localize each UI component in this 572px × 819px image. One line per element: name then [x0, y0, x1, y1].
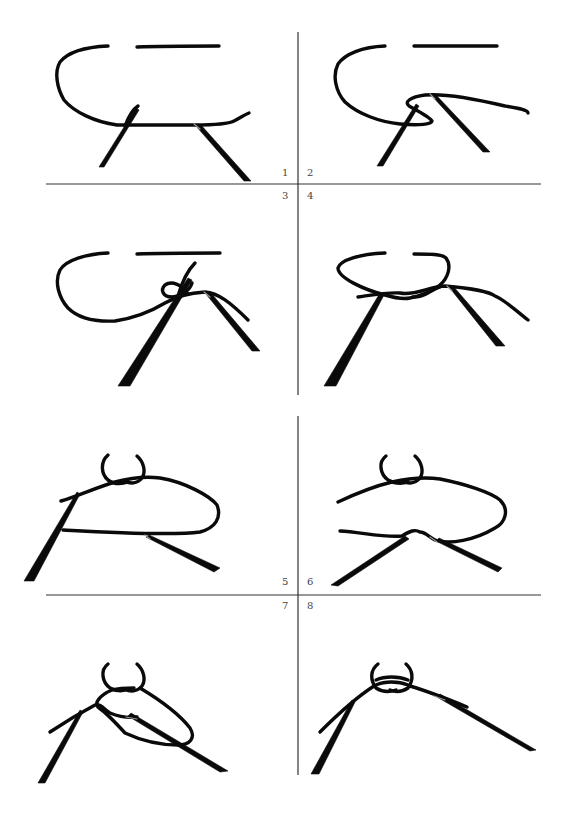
needle-left-icon [377, 104, 419, 166]
needle-right-icon [206, 293, 260, 351]
rope-crossing [358, 286, 528, 320]
panel-step-1 [57, 46, 251, 181]
needle-left-icon [118, 278, 192, 386]
rope-left-tail [50, 705, 137, 732]
needle-left-icon [324, 293, 384, 386]
step-number-8: 8 [307, 601, 313, 611]
step-number-7: 7 [282, 601, 288, 611]
step-number-4: 4 [307, 191, 313, 201]
step-number-3: 3 [282, 191, 288, 201]
panel-step-6 [331, 456, 505, 586]
panel-step-5 [24, 455, 220, 581]
knot-diagram: 1 2 3 4 5 6 7 8 [0, 0, 572, 819]
needle-right-icon [146, 535, 220, 572]
rope-left-segment [335, 46, 528, 125]
rope-knot-top [376, 677, 408, 680]
rope-upper-strand [338, 478, 505, 542]
rope-left-segment [57, 46, 249, 125]
needle-left-icon [331, 536, 409, 586]
needle-right-icon [436, 538, 502, 572]
panel-step-8 [311, 664, 536, 774]
needle-left-icon [311, 700, 355, 774]
panel-step-3 [57, 253, 260, 386]
diagram-canvas [0, 0, 572, 819]
needle-right-icon [437, 694, 536, 751]
rope-loop-strand [97, 688, 193, 745]
step-number-1: 1 [282, 168, 288, 178]
grid-dividers [46, 32, 541, 775]
rope-knot-middle [376, 682, 408, 685]
panel-step-7 [38, 664, 228, 783]
step-number-5: 5 [282, 577, 288, 587]
step-number-2: 2 [307, 168, 313, 178]
needle-left-icon [24, 492, 80, 581]
step-number-6: 6 [307, 577, 313, 587]
panel-step-2 [335, 46, 528, 166]
needle-left-icon [99, 108, 139, 167]
needle-left-icon [38, 710, 83, 783]
needle-right-icon [432, 95, 490, 152]
rope-upper-strand [61, 477, 219, 533]
needle-right-icon [196, 125, 251, 181]
panel-step-4 [324, 253, 528, 386]
needle-right-icon [128, 713, 228, 772]
rope-top-segment [137, 46, 219, 47]
rope-top-segment [137, 253, 220, 254]
